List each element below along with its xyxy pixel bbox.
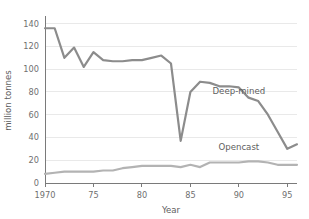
y-tick-label: 0 xyxy=(34,178,39,188)
x-tick-label: 80 xyxy=(137,190,147,200)
y-tick-label: 120 xyxy=(23,41,39,51)
y-axis-ticks: 020406080100120140 xyxy=(23,19,39,188)
y-tick-label: 100 xyxy=(23,64,39,74)
x-axis-ticks: 19707580859095 xyxy=(35,183,293,200)
y-axis-title: million tonnes xyxy=(3,70,13,131)
x-axis-title: Year xyxy=(161,205,181,215)
series-label-opencast: Opencast xyxy=(218,142,259,152)
x-tick-label: 95 xyxy=(282,190,292,200)
y-tick-label: 140 xyxy=(23,19,39,29)
series-line-opencast xyxy=(45,161,297,174)
series-label-deep-mined: Deep-mined xyxy=(212,86,265,96)
x-tick-label: 1970 xyxy=(35,190,56,200)
x-tick-label: 90 xyxy=(234,190,244,200)
y-tick-label: 40 xyxy=(29,132,39,142)
y-tick-label: 60 xyxy=(29,110,39,120)
data-series-group xyxy=(45,28,297,174)
chart-figure: 020406080100120140 19707580859095 Deep-m… xyxy=(0,0,309,219)
y-tick-label: 80 xyxy=(29,87,39,97)
series-labels-group: Deep-minedOpencast xyxy=(212,86,265,152)
line-chart: 020406080100120140 19707580859095 Deep-m… xyxy=(0,0,309,219)
x-tick-label: 75 xyxy=(88,190,98,200)
x-tick-label: 85 xyxy=(185,190,195,200)
y-tick-label: 20 xyxy=(29,155,39,165)
